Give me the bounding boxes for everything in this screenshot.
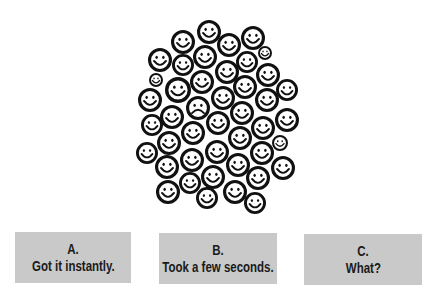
smiley-face-icon	[273, 136, 287, 150]
smiley-face-icon	[208, 113, 229, 134]
smiley-face-icon	[273, 158, 294, 179]
smiley-face-icon	[195, 47, 216, 68]
smiley-face-icon	[228, 155, 249, 176]
smiley-face-icon	[150, 74, 162, 86]
smiley-face-icon	[235, 77, 256, 98]
smiley-face-icon	[277, 110, 298, 131]
smiley-face-icon	[253, 118, 274, 139]
smiley-face-icon	[277, 80, 296, 99]
smiley-face-icon	[257, 90, 278, 111]
smiley-face-icon	[183, 123, 204, 144]
smiley-face-icon	[173, 32, 194, 53]
smiley-face-icon	[258, 65, 279, 86]
smiley-face-icon	[180, 173, 199, 192]
smiley-face-icon	[252, 143, 273, 164]
smiley-face-icon	[192, 72, 213, 93]
smiley-face-icon	[230, 128, 251, 149]
option-a-label: Got it instantly.	[32, 258, 115, 275]
option-b-letter: B.	[212, 242, 223, 259]
smiley-face-icon	[167, 79, 190, 102]
smiley-face-icon	[213, 88, 234, 109]
smiley-face-icon	[203, 167, 224, 188]
smiley-face-icon	[158, 182, 179, 203]
smiley-face-icon	[243, 28, 264, 49]
option-c-label: What?	[345, 260, 380, 277]
smiley-face-icon	[157, 157, 178, 178]
smiley-face-icon	[248, 168, 269, 189]
smiley-face-icon	[162, 107, 183, 128]
smiley-face-icon	[237, 52, 256, 71]
smiley-face-icon	[150, 50, 171, 71]
smiley-face-icon	[142, 115, 161, 134]
smiley-face-icon	[199, 22, 220, 43]
smiley-crowd-illustration	[0, 0, 435, 230]
option-b-button[interactable]: B. Took a few seconds.	[159, 233, 277, 284]
smiley-face-icon	[137, 143, 156, 162]
smiley-face-icon	[182, 150, 203, 171]
option-a-letter: A.	[67, 241, 78, 258]
smiley-face-icon	[219, 35, 240, 56]
smiley-face-icon	[207, 142, 228, 163]
smiley-face-icon	[173, 55, 192, 74]
option-c-letter: C.	[357, 243, 368, 260]
option-c-button[interactable]: C. What?	[304, 234, 422, 285]
smiley-face-icon	[245, 193, 264, 212]
option-a-button[interactable]: A. Got it instantly.	[15, 232, 131, 283]
smiley-face-icon	[232, 103, 253, 124]
smiley-face-icon	[140, 90, 161, 111]
frown-face-icon	[188, 98, 209, 119]
smiley-face-icon	[259, 47, 271, 59]
smiley-face-icon	[217, 62, 238, 83]
option-b-label: Took a few seconds.	[162, 259, 273, 276]
smiley-face-icon	[159, 133, 180, 154]
smiley-face-icon	[225, 182, 246, 203]
smiley-face-icon	[197, 188, 216, 207]
